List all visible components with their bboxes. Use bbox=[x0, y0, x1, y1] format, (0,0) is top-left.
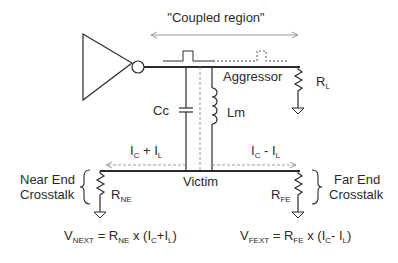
load-resistor-icon bbox=[292, 67, 304, 114]
far-end-resistor-label: RFE bbox=[271, 187, 291, 204]
fext-equation: VFEXT = RFE x (IC- IL) bbox=[240, 228, 351, 245]
aggressor-pulse-icon bbox=[163, 51, 215, 61]
next-equation: VNEXT = RNE x (IC+IL) bbox=[64, 228, 177, 245]
near-end-crosstalk-label-line2: Crosstalk bbox=[20, 187, 75, 202]
near-end-resistor-label: RNE bbox=[111, 187, 132, 204]
inverter-driver-icon bbox=[83, 34, 144, 100]
coupling-capacitor-label: Cc bbox=[153, 103, 169, 118]
coupling-capacitor-icon bbox=[179, 67, 193, 171]
mutual-inductance-label: Lm bbox=[227, 105, 245, 120]
mutual-inductor-icon bbox=[212, 67, 217, 171]
crosstalk-diagram: "Coupled region" Aggressor RL Cc Lm IC +… bbox=[0, 0, 398, 263]
near-end-brace-icon bbox=[80, 170, 90, 204]
far-end-crosstalk-label-line1: Far End bbox=[334, 172, 380, 187]
near-end-crosstalk-label-line1: Near End bbox=[20, 172, 75, 187]
coupled-region-label: "Coupled region" bbox=[167, 10, 265, 25]
far-end-brace-icon bbox=[312, 170, 322, 204]
near-end-current-label: IC + IL bbox=[130, 143, 163, 160]
near-end-resistor-icon bbox=[94, 171, 106, 218]
victim-label: Victim bbox=[183, 174, 218, 189]
far-end-crosstalk-label-line2: Crosstalk bbox=[329, 187, 384, 202]
propagated-pulse-icon bbox=[217, 51, 287, 61]
far-end-resistor-icon bbox=[292, 171, 304, 218]
load-resistor-label: RL bbox=[316, 74, 330, 91]
aggressor-label: Aggressor bbox=[223, 69, 283, 84]
far-end-current-label: IC - IL bbox=[251, 143, 281, 160]
